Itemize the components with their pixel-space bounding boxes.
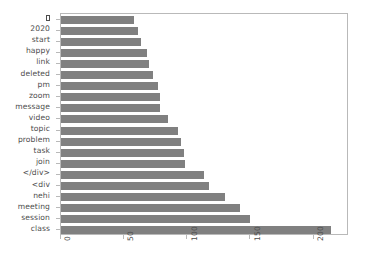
y-tick-label: happy: [26, 47, 50, 55]
y-tick-label: topic: [31, 125, 50, 133]
bar-fill: [61, 60, 149, 68]
x-tick-mark: [313, 235, 314, 239]
bar: [61, 182, 209, 190]
bar: [61, 82, 158, 90]
bar-fill: [61, 149, 184, 157]
bar-fill: [61, 182, 209, 190]
x-axis-tick-labels: 050100150200: [0, 235, 380, 272]
bar: [61, 193, 225, 201]
y-tick-mark: [56, 118, 60, 119]
y-tick-mark: [56, 141, 60, 142]
y-tick-label: 2020: [30, 25, 50, 33]
x-tick-label: 100: [190, 226, 199, 241]
x-tick-label: 50: [126, 231, 135, 241]
bar-series: [61, 14, 347, 234]
y-tick-label: video: [29, 114, 50, 122]
y-tick-label: session: [21, 214, 50, 222]
y-tick-label: [46, 14, 50, 22]
y-tick-mark: [56, 218, 60, 219]
bar: [61, 171, 204, 179]
bar: [61, 149, 184, 157]
bar-fill: [61, 16, 134, 24]
y-tick-label: start: [32, 36, 50, 44]
y-tick-mark: [56, 107, 60, 108]
bar-fill: [61, 138, 181, 146]
bar: [61, 115, 168, 123]
bar: [61, 160, 185, 168]
bar: [61, 60, 149, 68]
y-tick-mark: [56, 52, 60, 53]
bar-fill: [61, 127, 178, 135]
y-tick-label: nehi: [33, 192, 50, 200]
bar: [61, 138, 181, 146]
bar: [61, 215, 250, 223]
y-tick-label: meeting: [18, 203, 50, 211]
x-tick-label: 200: [316, 226, 325, 241]
bar-fill: [61, 93, 160, 101]
y-tick-label: message: [15, 103, 50, 111]
x-tick-mark: [123, 235, 124, 239]
plot-area: [60, 13, 348, 235]
y-tick-label: problem: [18, 136, 50, 144]
bar-fill: [61, 215, 250, 223]
y-tick-mark: [56, 130, 60, 131]
x-tick-label: 0: [63, 236, 72, 241]
bar: [61, 49, 147, 57]
bar: [61, 27, 138, 35]
y-tick-label: class: [31, 225, 50, 233]
bar: [61, 16, 134, 24]
x-tick-mark: [249, 235, 250, 239]
x-tick-mark: [186, 235, 187, 239]
y-tick-mark: [56, 63, 60, 64]
y-tick-label: deleted: [21, 70, 50, 78]
bar-fill: [61, 104, 160, 112]
y-tick-label: </div>: [23, 169, 50, 177]
x-tick-label: 150: [253, 226, 262, 241]
bar-fill: [61, 38, 141, 46]
bar-fill: [61, 204, 240, 212]
missing-glyph-icon: [46, 15, 50, 21]
bar-chart-figure: 2020starthappylinkdeletedpmzoommessagevi…: [0, 0, 380, 272]
y-tick-mark: [56, 207, 60, 208]
y-tick-mark: [56, 96, 60, 97]
y-axis-tick-labels: 2020starthappylinkdeletedpmzoommessagevi…: [0, 13, 56, 235]
bar: [61, 71, 153, 79]
bar: [61, 204, 240, 212]
y-tick-mark: [56, 74, 60, 75]
y-tick-mark: [56, 229, 60, 230]
y-tick-label: <div: [32, 181, 50, 189]
y-tick-label: task: [34, 147, 50, 155]
bar-fill: [61, 27, 138, 35]
y-tick-label: zoom: [29, 92, 50, 100]
y-tick-label: link: [36, 58, 50, 66]
bar-fill: [61, 49, 147, 57]
bar-fill: [61, 71, 153, 79]
y-tick-mark: [56, 185, 60, 186]
bar: [61, 127, 178, 135]
y-tick-mark: [56, 19, 60, 20]
bar: [61, 104, 160, 112]
y-tick-label: pm: [38, 81, 50, 89]
y-tick-label: join: [36, 158, 50, 166]
y-tick-mark: [56, 85, 60, 86]
y-tick-mark: [56, 196, 60, 197]
y-tick-mark: [56, 41, 60, 42]
bar-fill: [61, 115, 168, 123]
bar-fill: [61, 160, 185, 168]
bar-fill: [61, 82, 158, 90]
bar: [61, 38, 141, 46]
bar: [61, 93, 160, 101]
bar-fill: [61, 171, 204, 179]
y-tick-mark: [56, 174, 60, 175]
y-tick-mark: [56, 163, 60, 164]
y-tick-mark: [56, 152, 60, 153]
bar-fill: [61, 193, 225, 201]
x-tick-mark: [60, 235, 61, 239]
y-tick-mark: [56, 30, 60, 31]
